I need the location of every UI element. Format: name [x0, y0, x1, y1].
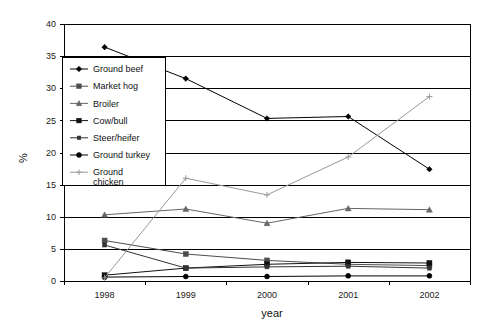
series-steer-heifer [103, 243, 432, 270]
x-tick-label: 2000 [257, 290, 277, 300]
data-point-marker [427, 166, 433, 172]
legend-item-label[interactable]: Steer/heifer [93, 133, 140, 143]
series-broiler [102, 205, 433, 225]
data-point-marker [265, 265, 269, 269]
data-point-marker [346, 264, 350, 268]
legend-item-label-line2[interactable]: chicken [93, 177, 124, 187]
data-point-marker [102, 44, 108, 50]
data-point-marker [183, 76, 189, 82]
chart-container: 0510152025303540 19981999200020012002 Gr… [0, 0, 490, 327]
y-axis-title: % [17, 153, 29, 163]
data-point-marker [345, 114, 351, 120]
legend-item-label[interactable]: Cow/bull [93, 116, 128, 126]
legend-item-label[interactable]: Broiler [93, 99, 119, 109]
data-point-marker [103, 243, 107, 247]
x-tick-label: 2001 [338, 290, 358, 300]
legend-marker [77, 136, 81, 140]
y-tick-label: 0 [51, 276, 56, 286]
legend-marker [77, 118, 82, 123]
legend-marker [77, 84, 82, 89]
x-axis-title: year [261, 307, 283, 319]
data-point-marker [264, 192, 270, 198]
y-tick-label: 30 [46, 83, 56, 93]
series-ground-turkey [102, 273, 432, 279]
data-point-marker [427, 273, 432, 278]
x-tick-label: 2002 [419, 290, 439, 300]
line-chart: 0510152025303540 19981999200020012002 Gr… [0, 0, 490, 327]
legend-item-label[interactable]: Ground [93, 167, 123, 177]
x-tick-label: 1998 [95, 290, 115, 300]
legend-item-label[interactable]: Ground beef [93, 64, 144, 74]
x-axis-tick-labels: 19981999200020012002 [95, 290, 440, 300]
y-tick-label: 25 [46, 116, 56, 126]
y-tick-label: 20 [46, 148, 56, 158]
y-tick-label: 15 [46, 180, 56, 190]
data-point-marker [183, 252, 188, 257]
data-point-marker [346, 273, 351, 278]
chart-legend: Ground beefMarket hogBroilerCow/bullStee… [63, 58, 166, 188]
data-point-marker [102, 238, 107, 243]
data-point-marker [183, 274, 188, 279]
data-point-marker [184, 266, 188, 270]
y-tick-label: 10 [46, 212, 56, 222]
legend-item-label[interactable]: Ground turkey [93, 150, 151, 160]
y-tick-label: 35 [46, 51, 56, 61]
legend-marker [77, 153, 82, 158]
legend-item-label[interactable]: Market hog [93, 81, 138, 91]
data-point-marker [427, 261, 432, 266]
data-point-marker [265, 274, 270, 279]
x-tick-label: 1999 [176, 290, 196, 300]
data-point-marker [427, 266, 431, 270]
y-axis-tick-labels: 0510152025303540 [46, 19, 56, 286]
y-tick-label: 5 [51, 244, 56, 254]
y-tick-label: 40 [46, 19, 56, 29]
